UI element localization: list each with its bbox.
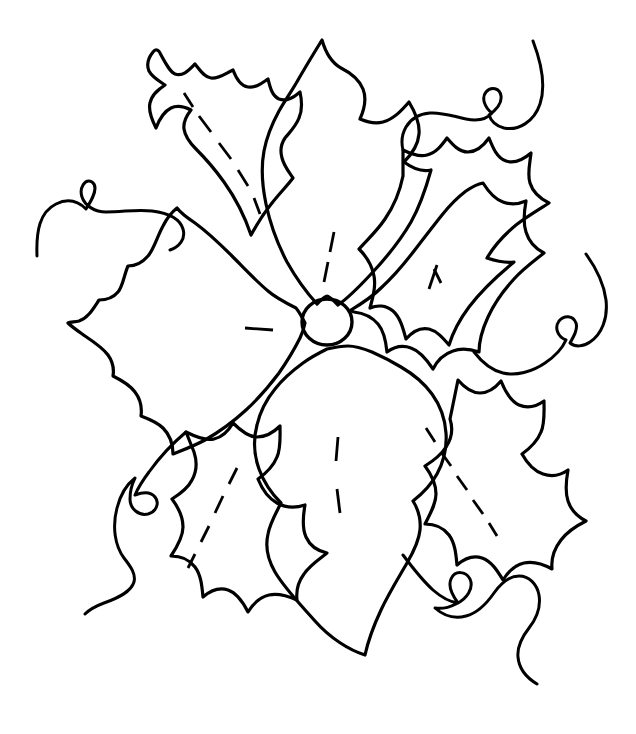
line-art-illustration [0, 0, 636, 734]
petal-left-vein [245, 328, 273, 330]
coloring-page-canvas: Poinsettia Flower Line Drawing poinsetti… [0, 0, 636, 734]
